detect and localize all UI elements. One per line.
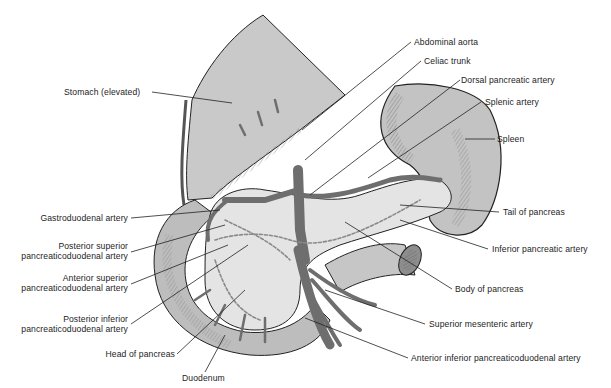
label-body-of-pancreas: Body of pancreas bbox=[455, 284, 523, 294]
label-tail-of-pancreas: Tail of pancreas bbox=[503, 207, 565, 217]
label-splenic-artery: Splenic artery bbox=[485, 97, 539, 107]
label-anterior-superior-pd-line1: Anterior superior bbox=[8, 273, 128, 283]
label-anterior-superior-pd-line2: pancreaticoduodenal artery bbox=[8, 283, 128, 293]
label-gastroduodenal-artery: Gastroduodenal artery bbox=[28, 213, 128, 223]
label-abdominal-aorta: Abdominal aorta bbox=[414, 37, 478, 47]
stomach-shape bbox=[182, 15, 345, 205]
label-spleen: Spleen bbox=[497, 134, 524, 144]
label-stomach: Stomach (elevated) bbox=[64, 87, 140, 97]
label-dorsal-pancreatic-artery: Dorsal pancreatic artery bbox=[461, 75, 555, 85]
label-anterior-inferior-pd-artery: Anterior inferior pancreaticoduodenal ar… bbox=[411, 353, 581, 363]
label-posterior-superior-pd-line2: pancreaticoduodenal artery bbox=[8, 251, 128, 261]
label-celiac-trunk: Celiac trunk bbox=[424, 56, 471, 66]
label-head-of-pancreas: Head of pancreas bbox=[75, 349, 175, 359]
label-superior-mesenteric-artery: Superior mesenteric artery bbox=[429, 319, 533, 329]
label-posterior-superior-pd-line1: Posterior superior bbox=[8, 241, 128, 251]
jejunum-tube bbox=[325, 241, 426, 292]
label-posterior-inferior-pd-line1: Posterior inferior bbox=[8, 314, 128, 324]
pancreas-arterial-supply-diagram: Stomach (elevated) Gastroduodenal artery… bbox=[0, 0, 611, 388]
label-duodenum: Duodenum bbox=[182, 373, 225, 383]
label-inferior-pancreatic-artery: Inferior pancreatic artery bbox=[492, 244, 588, 254]
label-posterior-inferior-pd-line2: pancreaticoduodenal artery bbox=[8, 324, 128, 334]
